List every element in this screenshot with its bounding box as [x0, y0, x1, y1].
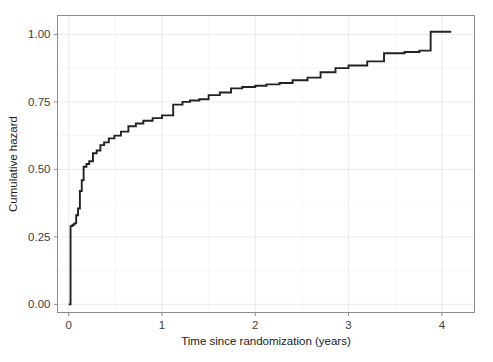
x-tick-label: 2: [252, 319, 258, 331]
y-tick-label: 1.00: [28, 28, 50, 40]
y-tick-label: 0.25: [28, 231, 50, 243]
x-tick-label: 0: [65, 319, 71, 331]
y-tick-label: 0.75: [28, 96, 50, 108]
x-tick-label: 3: [345, 319, 351, 331]
x-axis-title: Time since randomization (years): [181, 335, 351, 347]
cumulative-hazard-chart: 0.000.250.500.751.00 01234 Time since ra…: [0, 0, 493, 362]
y-tick-label: 0.00: [28, 298, 50, 310]
chart-container: 0.000.250.500.751.00 01234 Time since ra…: [0, 0, 493, 362]
chart-background: [0, 0, 493, 362]
x-tick-label: 4: [439, 319, 446, 331]
y-axis-title: Cumulative hazard: [7, 116, 19, 212]
y-tick-label: 0.50: [28, 163, 50, 175]
x-tick-label: 1: [159, 319, 165, 331]
